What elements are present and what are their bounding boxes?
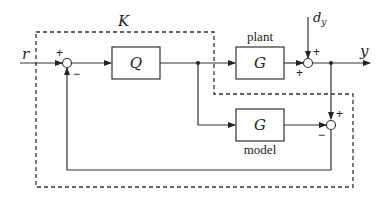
plant-g-label: G [254, 54, 266, 72]
output-sum-left-plus: + [296, 66, 303, 80]
model-caption: model [244, 142, 277, 157]
input-summing-junction [63, 59, 72, 68]
feedback-arrow [67, 68, 331, 170]
model-sum-plus-sign: + [336, 107, 343, 121]
plant-caption: plant [247, 29, 273, 44]
model-g-label: G [254, 116, 266, 134]
model-sum-minus-sign: − [318, 128, 325, 142]
output-summing-junction [304, 59, 313, 68]
imc-block-diagram: K r + − Q plant G dy + + y G model + − [0, 0, 387, 199]
q-block-label: Q [130, 54, 142, 72]
controller-k-label: K [117, 12, 130, 30]
disturbance-label: dy [313, 10, 327, 27]
output-sum-top-plus: + [313, 45, 320, 59]
controller-k-boundary [36, 32, 353, 187]
model-summing-junction [327, 121, 336, 130]
input-sum-plus-sign: + [56, 46, 63, 60]
output-label: y [359, 42, 369, 60]
reference-label: r [22, 45, 30, 63]
input-sum-minus-sign: − [73, 67, 80, 81]
